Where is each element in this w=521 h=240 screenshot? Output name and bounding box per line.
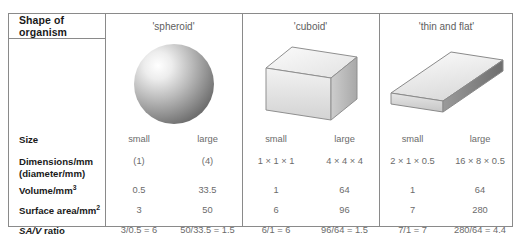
cell-dimensions-cuboid-small: 1 × 1 × 1 [242, 156, 310, 166]
cell-sav-spheroid-small: 3/0.5 = 6 [105, 225, 173, 235]
cell-sav-flat-large: 280/64 = 4.4 [446, 225, 514, 235]
figure-sheet: Shape of organism 'spheroid' 'cuboid' 't… [0, 0, 521, 240]
cell-surface-area-cuboid-large: 96 [310, 205, 379, 215]
column-header-cuboid: 'cuboid' [242, 14, 379, 38]
sphere-icon [132, 42, 216, 126]
header-shape-of-organism: Shape of organism [9, 14, 105, 38]
cell-volume-spheroid-small: 0.5 [105, 185, 173, 195]
cuboid-icon [262, 44, 360, 124]
slab-icon [388, 46, 506, 122]
row-label-dimensions: Dimensions/mm (diameter/mm) [9, 156, 105, 179]
comparison-table: Shape of organism 'spheroid' 'cuboid' 't… [8, 13, 513, 227]
cell-volume-cuboid-small: 1 [242, 185, 310, 195]
cell-volume-cuboid-large: 64 [310, 185, 379, 195]
row-label-volume: Volume/mm3 [9, 185, 105, 197]
illustration-cell-thin-and-flat [379, 38, 514, 129]
cell-sav-spheroid-large: 50/33.5 = 1.5 [173, 225, 242, 235]
illustration-cell-spheroid [105, 38, 242, 129]
cell-sav-cuboid-large: 96/64 = 1.5 [310, 225, 379, 235]
cell-sav-flat-small: 7/1 = 7 [379, 225, 446, 235]
cell-volume-flat-large: 64 [446, 185, 514, 195]
column-header-thin-and-flat: 'thin and flat' [379, 14, 514, 38]
row-label-size: Size [9, 134, 105, 146]
cell-surface-area-flat-small: 7 [379, 205, 446, 215]
surface-area-exponent: 2 [96, 204, 100, 211]
row-label-surface-area: Surface area/mm2 [9, 205, 105, 217]
column-header-spheroid-label: 'spheroid' [152, 21, 194, 32]
row-label-diameter-text: (diameter/mm) [19, 168, 85, 179]
cell-sav-cuboid-small: 6/1 = 6 [242, 225, 310, 235]
cell-size-spheroid-large: large [173, 134, 242, 144]
cell-dimensions-flat-small: 2 × 1 × 0.5 [379, 156, 446, 166]
cell-surface-area-spheroid-large: 50 [173, 205, 242, 215]
row-label-sav-ratio: SA/V ratio [9, 225, 105, 237]
cell-volume-flat-small: 1 [379, 185, 446, 195]
row-label-size-text: Size [19, 134, 38, 145]
cell-surface-area-flat-large: 280 [446, 205, 514, 215]
cell-dimensions-cuboid-large: 4 × 4 × 4 [310, 156, 379, 166]
cell-dimensions-flat-large: 16 × 8 × 0.5 [446, 156, 514, 166]
column-header-thin-and-flat-label: 'thin and flat' [419, 21, 475, 32]
cell-surface-area-cuboid-small: 6 [242, 205, 310, 215]
cell-volume-spheroid-large: 33.5 [173, 185, 242, 195]
row-label-dimensions-text: Dimensions/mm [19, 156, 93, 167]
cell-size-flat-small: small [379, 134, 446, 144]
cell-size-cuboid-small: small [242, 134, 310, 144]
header-underline [9, 38, 105, 39]
illustration-cell-cuboid [242, 38, 379, 129]
row-label-ratio-text: ratio [41, 225, 64, 236]
cell-size-flat-large: large [446, 134, 514, 144]
row-label-volume-text: Volume/mm [19, 185, 73, 196]
row-label-sav-text: SA/V [19, 225, 41, 236]
column-header-cuboid-label: 'cuboid' [294, 21, 327, 32]
cell-dimensions-spheroid-small: (1) [105, 156, 173, 166]
cell-size-spheroid-small: small [105, 134, 173, 144]
row-label-surface-area-text: Surface area/mm [19, 205, 96, 216]
volume-exponent: 3 [73, 184, 77, 191]
cell-surface-area-spheroid-small: 3 [105, 205, 173, 215]
cell-size-cuboid-large: large [310, 134, 379, 144]
column-header-spheroid: 'spheroid' [105, 14, 242, 38]
cell-dimensions-spheroid-large: (4) [173, 156, 242, 166]
table-header-label-cell: Shape of organism [9, 14, 105, 38]
